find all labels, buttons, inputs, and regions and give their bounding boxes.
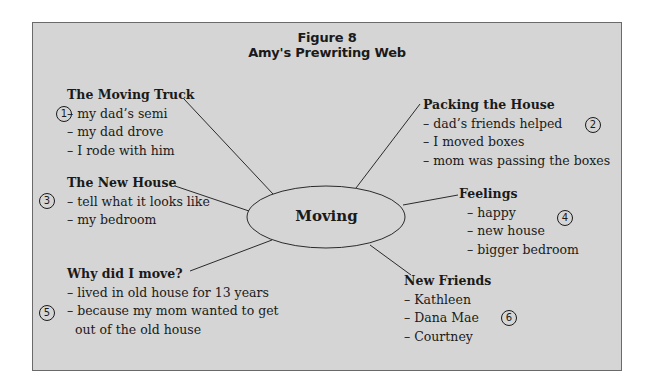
node-item: – I rode with him [67, 142, 194, 161]
node-why-move: Why did I move? – lived in old house for… [67, 265, 279, 339]
connector-feelings [403, 195, 458, 205]
node-number-5: 5 [39, 305, 55, 321]
node-packing-house: Packing the House – dad’s friends helped… [423, 96, 610, 170]
node-item: out of the old house [67, 321, 279, 340]
node-item: – Courtney [404, 328, 491, 347]
node-heading: The Moving Truck [67, 86, 194, 105]
node-item: – I moved boxes [423, 133, 610, 152]
node-item: – Kathleen [404, 291, 491, 310]
node-item: – happy [459, 204, 579, 223]
node-new-house: The New House – tell what it looks like … [67, 174, 210, 230]
node-item: – tell what it looks like [67, 193, 210, 212]
node-item: – because my mom wanted to get [67, 302, 279, 321]
node-item: – dad’s friends helped [423, 115, 610, 134]
node-number-6: 6 [501, 310, 517, 326]
node-item: – Dana Mae [404, 309, 491, 328]
node-item: – my dad’s semi [67, 105, 194, 124]
connector-new-friends [370, 245, 411, 275]
center-topic: Moving [247, 207, 406, 225]
node-heading: Why did I move? [67, 265, 279, 284]
node-new-friends: New Friends – Kathleen – Dana Mae – Cour… [404, 272, 491, 346]
node-heading: Feelings [459, 185, 579, 204]
node-moving-truck: The Moving Truck – my dad’s semi – my da… [67, 86, 194, 160]
connector-packing [356, 104, 420, 188]
node-item: – bigger bedroom [459, 241, 579, 260]
node-heading: Packing the House [423, 96, 610, 115]
node-number-3: 3 [39, 193, 55, 209]
node-item: – new house [459, 222, 579, 241]
node-item: – my bedroom [67, 211, 210, 230]
node-heading: The New House [67, 174, 210, 193]
node-heading: New Friends [404, 272, 491, 291]
node-item: – my dad drove [67, 123, 194, 142]
node-item: – lived in old house for 13 years [67, 284, 279, 303]
node-item: – mom was passing the boxes [423, 152, 610, 171]
node-feelings: Feelings – happy – new house – bigger be… [459, 185, 579, 259]
